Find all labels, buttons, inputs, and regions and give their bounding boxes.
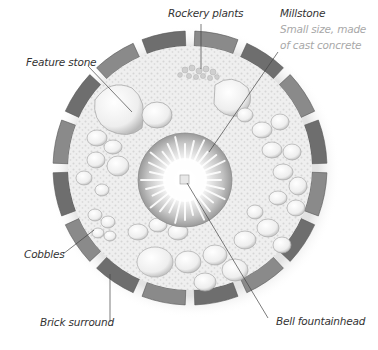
label-cobbles: Cobbles — [24, 248, 65, 260]
label-millstone-desc-1: Small size, made — [280, 23, 366, 35]
label-brick-surround: Brick surround — [40, 316, 114, 328]
label-feature-stone: Feature stone — [26, 56, 96, 68]
label-rockery-plants: Rockery plants — [168, 7, 243, 19]
diagram-canvas — [0, 0, 378, 350]
millstone — [138, 133, 232, 227]
label-bell-fountainhead: Bell fountainhead — [276, 315, 365, 327]
label-millstone-title: Millstone — [280, 7, 325, 19]
label-millstone-desc-2: of cast concrete — [280, 39, 361, 51]
bell-fountainhead — [180, 175, 189, 184]
